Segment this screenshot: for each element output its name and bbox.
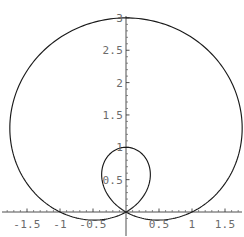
y-tick-label: 0.5 xyxy=(103,174,123,185)
x-tick-label: 1.5 xyxy=(215,219,235,230)
y-tick-label: 2 xyxy=(116,77,123,88)
y-tick-label: 3 xyxy=(116,12,123,23)
y-tick-label: 1.5 xyxy=(103,109,123,120)
x-tick-label: 1 xyxy=(189,219,196,230)
x-tick-label: 0.5 xyxy=(149,219,169,230)
x-tick-label: -0.5 xyxy=(79,219,106,230)
y-tick-label: 2.5 xyxy=(103,45,123,56)
y-tick-label: 1 xyxy=(116,142,123,153)
polar-plot-figure: -1.5-1-0.50.511.5 0.511.522.53 xyxy=(0,0,244,237)
x-tick-label: -1 xyxy=(53,219,67,230)
y-axis-group xyxy=(126,16,130,236)
y-axis-major-ticks xyxy=(126,18,130,180)
x-tick-label: -1.5 xyxy=(13,219,40,230)
